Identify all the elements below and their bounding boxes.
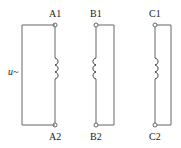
coil-b: [93, 58, 96, 79]
terminal-b1: [94, 23, 98, 27]
coil-a: [55, 58, 58, 79]
label-a2: A2: [49, 132, 61, 142]
terminal-c2: [153, 123, 157, 127]
label-c1: C1: [149, 9, 161, 19]
terminal-c1: [153, 23, 157, 27]
circuit-lines: [0, 0, 181, 148]
label-a1: A1: [49, 9, 61, 19]
coil-c: [155, 58, 158, 79]
source-loop-a: [22, 25, 55, 125]
source-label: u~: [8, 67, 18, 77]
label-b2: B2: [90, 132, 102, 142]
label-b1: B1: [90, 9, 102, 19]
label-c2: C2: [149, 132, 161, 142]
winding-diagram: u~ A1 A2 B1 B2 C1 C2: [0, 0, 181, 148]
terminal-b2: [94, 123, 98, 127]
